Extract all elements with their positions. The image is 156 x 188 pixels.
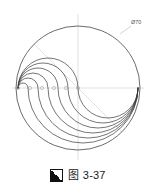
drawing-area: Ø70	[0, 0, 156, 160]
figure-container: Ø70 图 3-37	[0, 0, 156, 188]
dimension-leader-line	[120, 26, 131, 34]
dimension-label: Ø70	[131, 19, 141, 25]
black-white-diagonal-square-icon	[50, 169, 63, 182]
caption-row: 图 3-37	[0, 162, 156, 188]
figure-caption: 图 3-37	[68, 169, 105, 182]
technical-drawing-svg: Ø70	[0, 0, 156, 160]
